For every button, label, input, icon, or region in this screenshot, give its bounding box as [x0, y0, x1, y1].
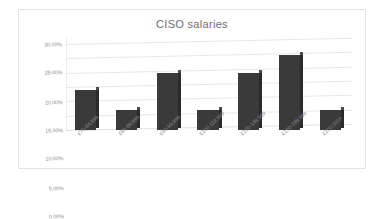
x-axis-labels: £70-84,999£85-89,999£90-99,999£100-119,9… — [66, 130, 352, 170]
bar-top-face — [137, 107, 140, 110]
bar-top-face — [300, 52, 303, 55]
bar-top-face — [96, 87, 99, 90]
chart-frame: CISO salaries 0.00%5.00%10.00%15.00%20.0… — [18, 9, 366, 169]
bar-top-face — [259, 70, 262, 73]
plot-area: 0.00%5.00%10.00%15.00%20.00%25.00%30.00% — [66, 44, 352, 130]
y-axis-tick-label: 20.00% — [45, 98, 63, 104]
chart-title: CISO salaries — [19, 18, 365, 30]
bar-top-face — [341, 107, 344, 110]
y-axis-tick-label: 30.00% — [44, 41, 62, 47]
bar-side-face — [96, 88, 99, 128]
y-axis-tick-label: 15.00% — [45, 127, 63, 133]
y-axis-tick-label: 25.00% — [45, 70, 63, 76]
bar-top-face — [178, 70, 181, 73]
bar-series — [66, 44, 352, 130]
y-axis-tick-label: 10.00% — [45, 156, 63, 162]
